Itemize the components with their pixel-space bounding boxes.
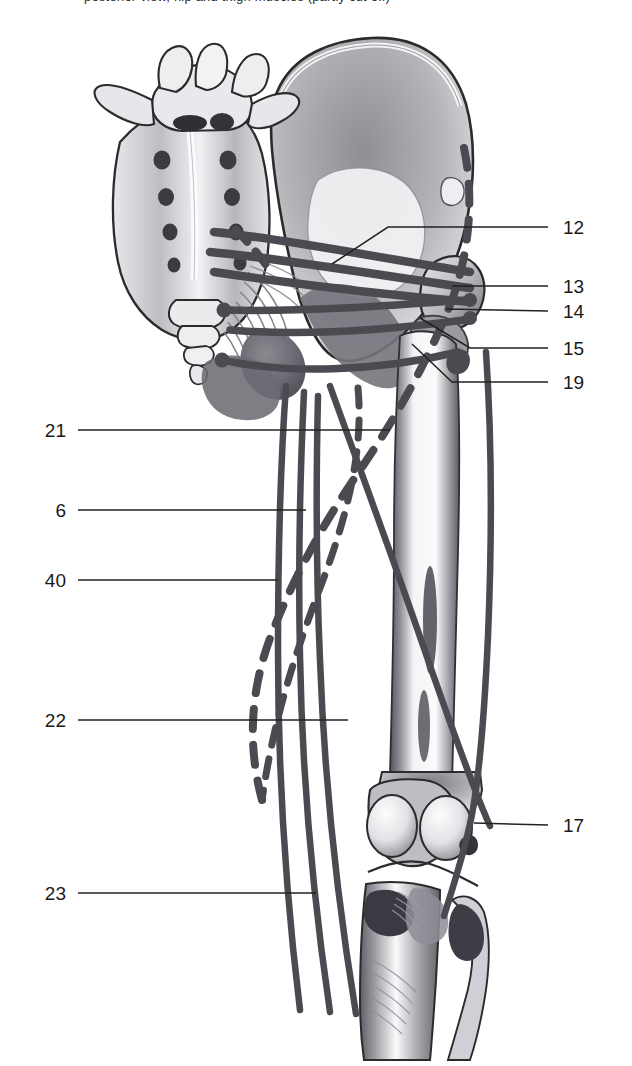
label-15: 15	[563, 338, 584, 359]
fibula	[448, 896, 489, 1060]
label-21: 21	[45, 420, 66, 441]
medial-condyle	[367, 795, 417, 857]
muscle-insertion-dot-quadratus	[463, 311, 477, 325]
muscle-origin-dot-obturator	[217, 303, 232, 318]
muscle-insertion-dot-obturator	[463, 293, 477, 307]
label-13: 13	[563, 276, 584, 297]
label-14: 14	[563, 301, 585, 322]
label-12: 12	[563, 217, 584, 238]
linea-aspera-lower	[418, 690, 430, 762]
label-17: 17	[563, 815, 584, 836]
tibia	[360, 882, 448, 1060]
muscle-origin-dot-gemellus	[215, 353, 230, 368]
label-22: 22	[45, 710, 66, 731]
label-23: 23	[45, 883, 66, 904]
label-19: 19	[563, 372, 584, 393]
label-40: 40	[45, 570, 66, 591]
anatomical-figure: 12 13 14 15 19 17 21 6 40 22 23	[0, 0, 632, 1066]
leader-17	[474, 823, 548, 825]
label-6: 6	[55, 500, 66, 521]
